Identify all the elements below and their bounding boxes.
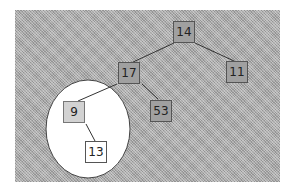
- edge-14-11: [195, 43, 234, 61]
- tree-node-17: 17: [118, 62, 140, 84]
- edge-17-53: [142, 84, 158, 99]
- edge-14-17: [131, 43, 174, 63]
- tree-edges-layer: [0, 0, 297, 191]
- tree-node-14: 14: [173, 21, 195, 43]
- tree-node-13: 13: [85, 141, 107, 163]
- tree-node-9: 9: [63, 101, 85, 123]
- tree-node-11: 11: [226, 61, 248, 83]
- highlight-ellipse: [46, 80, 130, 178]
- tree-node-53: 53: [150, 100, 172, 122]
